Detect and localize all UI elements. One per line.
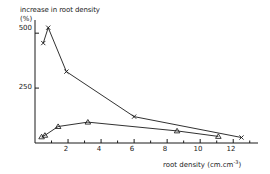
series-triangle — [39, 120, 221, 139]
series-line — [42, 122, 219, 137]
series-line — [43, 28, 241, 138]
data-point-cross — [46, 26, 50, 30]
data-point-cross — [64, 70, 68, 74]
data-point-cross — [41, 41, 45, 45]
data-series-group — [39, 26, 244, 140]
tick-marks-group — [35, 33, 250, 143]
chart-canvas — [0, 0, 270, 174]
chart-figure: increase in root density (%) root densit… — [0, 0, 270, 174]
series-cross — [41, 26, 243, 140]
